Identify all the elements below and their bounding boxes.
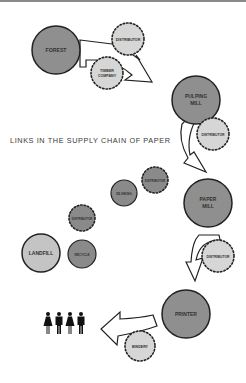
label-bindery: BINDERY xyxy=(132,345,149,349)
label-company: COMPANY xyxy=(98,74,117,78)
label-de-inking: DE-INKING xyxy=(116,192,132,196)
consumers-icons xyxy=(44,312,85,334)
label-paper-mill: MILL xyxy=(202,203,214,209)
node-timber-company xyxy=(91,57,123,89)
woman-icon xyxy=(66,312,75,334)
supply-chain-diagram: FOREST DISTRIBUTOR TIMBER COMPANY PULPIN… xyxy=(0,0,246,383)
label-distributor-1: DISTRIBUTOR xyxy=(116,38,141,42)
diagram-title: LINKS IN THE SUPPLY CHAIN OF PAPER xyxy=(10,136,171,145)
label-pulping-mill: MILL xyxy=(190,100,202,106)
label-recycle: RECYCLE xyxy=(74,253,89,257)
man-icon xyxy=(78,312,85,334)
label-forest: FOREST xyxy=(45,47,67,53)
label-timber: TIMBER xyxy=(100,69,114,73)
label-paper: PAPER xyxy=(200,196,217,202)
label-distributor-5: DISTRIBUTOR xyxy=(145,179,166,183)
label-distributor-4: DISTRIBUTOR xyxy=(72,217,93,221)
woman-icon xyxy=(44,312,53,334)
man-icon xyxy=(56,312,63,334)
label-distributor-3: DISTRIBUTOR xyxy=(206,255,230,259)
label-pulping: PULPING xyxy=(185,93,207,99)
label-distributor-2: DISTRIBUTOR xyxy=(201,133,225,137)
label-printer: PRINTER xyxy=(175,311,197,317)
label-landfill: LANDFILL xyxy=(29,250,53,256)
